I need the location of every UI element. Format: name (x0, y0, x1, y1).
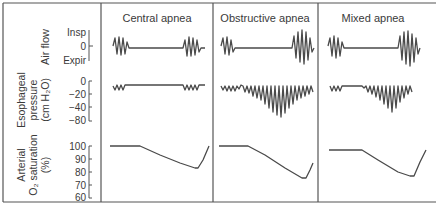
central-airflow-trace (113, 37, 205, 56)
tick-80: 80 (75, 167, 87, 178)
svg-text:Arterial: Arterial (15, 148, 27, 181)
mixed-airflow-trace (328, 31, 420, 66)
tick-60: 60 (75, 192, 87, 203)
obstructive-airflow-trace (221, 30, 314, 64)
row-esophageal-label: Esophageal pressure (cm H₂O) 0 −20 −40 −… (15, 72, 92, 127)
tick-insp: Insp (67, 27, 86, 38)
tick-minus80: −80 (69, 115, 86, 126)
svg-text:(%): (%) (39, 157, 51, 173)
column-title-mixed: Mixed apnea (342, 12, 406, 24)
tick-minus40: −40 (69, 102, 86, 113)
obstructive-esophageal-trace (221, 85, 313, 117)
mixed-saturation-trace (329, 150, 426, 176)
tick-90: 90 (75, 154, 87, 165)
tick-70: 70 (75, 180, 87, 191)
tick-zero: 0 (80, 41, 86, 52)
obstructive-saturation-trace (219, 146, 313, 178)
central-saturation-trace (110, 146, 209, 168)
svg-text:(cm H₂O): (cm H₂O) (39, 78, 51, 122)
column-title-central: Central apnea (122, 12, 192, 24)
svg-text:pressure: pressure (27, 79, 39, 120)
mixed-esophageal-trace (330, 86, 412, 112)
apnea-diagram: Central apnea Obstructive apnea Mixed ap… (0, 0, 436, 211)
central-esophageal-trace (113, 85, 205, 90)
tick-100: 100 (69, 141, 86, 152)
tick-expir: Expir (63, 55, 86, 66)
tick-minus20: −20 (69, 89, 86, 100)
svg-text:Air flow: Air flow (39, 29, 51, 65)
column-title-obstructive: Obstructive apnea (220, 12, 310, 24)
svg-text:O₂ saturation: O₂ saturation (27, 134, 39, 195)
tick-0: 0 (80, 76, 86, 87)
svg-text:Esophageal: Esophageal (15, 72, 27, 127)
row-saturation-label: Arterial O₂ saturation (%) 100 90 80 70 … (15, 134, 92, 203)
row-air-flow-label: Air flow Insp 0 Expir (39, 27, 93, 66)
